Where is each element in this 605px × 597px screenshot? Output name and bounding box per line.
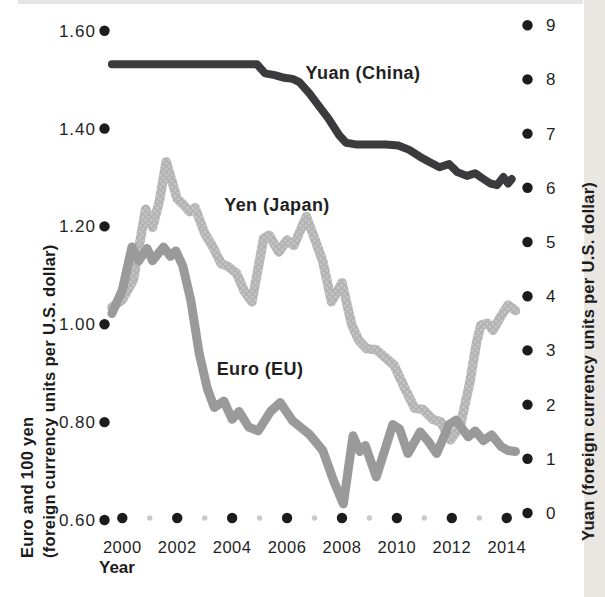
exchange-rate-plot: 1.601.401.201.000.800.609876543210200020… — [0, 0, 605, 597]
right-axis-tick-label: 2 — [546, 396, 556, 415]
x-axis-year-label: 2006 — [268, 538, 307, 556]
x-axis-tick-dot — [227, 513, 237, 523]
x-axis-year-label: 2010 — [378, 538, 417, 556]
series-label-yen: Yen (Japan) — [224, 195, 329, 215]
x-axis-tick-dot — [447, 513, 457, 523]
x-axis-year-label: 2014 — [487, 538, 526, 556]
x-axis-minor-tick-dot — [477, 515, 482, 520]
left-axis-tick-label: 1.00 — [59, 315, 96, 334]
left-axis-tick-dot — [99, 319, 109, 329]
x-axis-minor-tick-dot — [312, 515, 317, 520]
left-axis-tick-dot — [99, 123, 109, 133]
right-axis-tick-dot — [522, 20, 532, 30]
right-axis-title: Yuan (foreign currency units per U.S. do… — [579, 182, 597, 541]
right-axis-tick-label: 8 — [546, 70, 556, 89]
top-scan-streak — [18, 0, 583, 4]
right-axis-tick-label: 9 — [546, 16, 556, 35]
right-axis-tick-label: 1 — [546, 450, 556, 469]
left-axis-tick-label: 1.40 — [59, 120, 96, 139]
left-axis-tick-dot — [99, 221, 109, 231]
x-axis-year-label: 2008 — [323, 538, 362, 556]
right-axis-tick-dot — [522, 454, 532, 464]
x-axis-tick-dot — [337, 513, 347, 523]
left-axis-tick-label: 0.80 — [59, 413, 96, 432]
plot-elements: 1.601.401.201.000.800.609876543210200020… — [59, 16, 557, 556]
right-axis-tick-dot — [522, 399, 532, 409]
right-axis-tick-dot — [522, 183, 532, 193]
x-axis-tick-dot — [117, 513, 127, 523]
x-axis-tick-dot — [392, 513, 402, 523]
x-axis-year-label: 2012 — [432, 538, 471, 556]
x-axis-minor-tick-dot — [422, 515, 427, 520]
right-axis-tick-dot — [522, 237, 532, 247]
x-axis-tick-dot — [282, 513, 292, 523]
left-axis-tick-label: 0.60 — [59, 511, 96, 530]
x-axis-tick-dot — [172, 513, 182, 523]
right-axis-tick-dot — [522, 345, 532, 355]
left-axis-tick-dot — [99, 417, 109, 427]
x-axis-minor-tick-dot — [367, 515, 372, 520]
left-axis-title-line1: Euro and 100 yen — [18, 417, 36, 558]
right-axis-tick-label: 0 — [546, 504, 556, 523]
x-axis-year-label: 2004 — [213, 538, 252, 556]
series-label-yuan: Yuan (China) — [306, 63, 421, 83]
x-axis-year-label: 2000 — [103, 538, 142, 556]
right-axis-tick-dot — [522, 291, 532, 301]
exchange-rate-chart: 1.601.401.201.000.800.609876543210200020… — [0, 0, 605, 597]
left-axis-tick-dot — [99, 26, 109, 36]
right-axis-tick-dot — [522, 128, 532, 138]
right-axis-tick-label: 3 — [546, 341, 556, 360]
left-axis-tick-dot — [99, 515, 109, 525]
x-axis-title: Year — [99, 558, 135, 577]
series-label-euro: Euro (EU) — [217, 359, 304, 379]
right-axis-tick-label: 6 — [546, 179, 556, 198]
x-axis-minor-tick-dot — [202, 515, 207, 520]
right-axis-tick-label: 5 — [546, 233, 556, 252]
right-axis-tick-dot — [522, 74, 532, 84]
right-axis-tick-dot — [522, 508, 532, 518]
x-axis-minor-tick-dot — [257, 515, 262, 520]
x-axis-minor-tick-dot — [147, 515, 152, 520]
right-axis-tick-label: 7 — [546, 125, 556, 144]
left-axis-tick-label: 1.20 — [59, 217, 96, 236]
x-axis-tick-dot — [502, 513, 512, 523]
left-axis-tick-label: 1.60 — [59, 22, 96, 41]
x-axis-year-label: 2002 — [158, 538, 197, 556]
series-line-euro-eu — [112, 247, 516, 504]
right-axis-tick-label: 4 — [546, 287, 556, 306]
left-axis-title-line2: (foreign currency units per U.S. dollar) — [40, 244, 58, 558]
